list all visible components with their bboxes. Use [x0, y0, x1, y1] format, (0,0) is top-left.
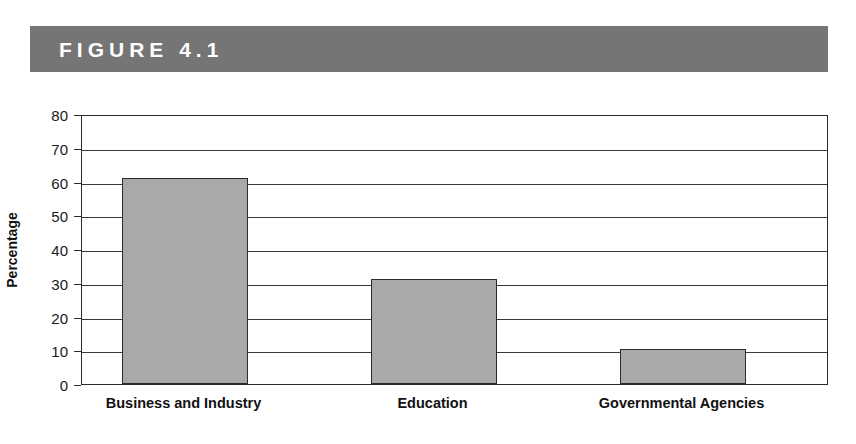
- y-axis-tick-label: 70: [51, 141, 68, 156]
- x-axis-category-label: Governmental Agencies: [599, 396, 764, 411]
- plot-area: [81, 115, 828, 385]
- bar: [620, 349, 746, 384]
- y-axis-tick-label: 30: [51, 276, 68, 291]
- x-axis-category-label: Business and Industry: [106, 396, 262, 411]
- y-axis-tick: [74, 351, 81, 352]
- y-axis-tick: [74, 216, 81, 217]
- x-axis-category-label: Education: [397, 396, 467, 411]
- y-axis-tick-label: 50: [51, 209, 68, 224]
- y-axis-tick-label: 80: [51, 108, 68, 123]
- y-axis-tick-label: 10: [51, 344, 68, 359]
- y-axis-tick-label: 40: [51, 243, 68, 258]
- y-axis-tick: [74, 183, 81, 184]
- y-axis-tick: [74, 318, 81, 319]
- y-axis-tick: [74, 284, 81, 285]
- gridline: [82, 150, 827, 151]
- bar: [122, 178, 248, 384]
- y-axis-tick: [74, 149, 81, 150]
- y-axis-tick-labels: 80706050403020100: [0, 0, 68, 444]
- bar-chart: Percentage 80706050403020100 Business an…: [0, 0, 856, 444]
- y-axis-tick-label: 60: [51, 175, 68, 190]
- y-axis-tick-label: 0: [60, 378, 68, 393]
- y-axis-tick-label: 20: [51, 310, 68, 325]
- bar: [371, 279, 497, 384]
- y-axis-tick: [74, 385, 81, 386]
- y-axis-tick: [74, 115, 81, 116]
- y-axis-tick: [74, 250, 81, 251]
